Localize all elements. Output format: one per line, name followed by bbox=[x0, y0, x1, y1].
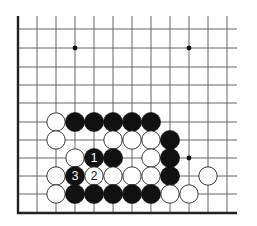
white-stone bbox=[47, 185, 65, 203]
black-stone bbox=[160, 130, 179, 149]
black-stone bbox=[84, 184, 103, 203]
black-stone bbox=[65, 184, 84, 203]
white-stone bbox=[123, 131, 141, 149]
move-number-label: 3 bbox=[72, 169, 79, 183]
black-stone bbox=[65, 112, 84, 131]
white-stone bbox=[104, 167, 122, 185]
black-stone bbox=[122, 184, 141, 203]
black-stone bbox=[103, 112, 122, 131]
black-stone bbox=[103, 148, 122, 167]
go-board: 132 bbox=[0, 0, 257, 226]
black-stone bbox=[160, 166, 179, 185]
black-stone bbox=[141, 184, 160, 203]
black-stone bbox=[160, 148, 179, 167]
white-stone: 2 bbox=[85, 167, 103, 185]
white-stone bbox=[161, 185, 179, 203]
white-stone bbox=[142, 167, 160, 185]
black-stone bbox=[84, 112, 103, 131]
white-stone bbox=[199, 167, 217, 185]
white-stone bbox=[142, 131, 160, 149]
white-stone bbox=[142, 149, 160, 167]
white-stone bbox=[180, 185, 198, 203]
black-stone bbox=[122, 112, 141, 131]
star-point bbox=[187, 156, 192, 161]
white-stone bbox=[66, 149, 84, 167]
white-stone bbox=[123, 167, 141, 185]
white-stone bbox=[47, 167, 65, 185]
white-stone bbox=[47, 113, 65, 131]
white-stone bbox=[47, 131, 65, 149]
black-stone: 3 bbox=[65, 166, 84, 185]
white-stone bbox=[104, 131, 122, 149]
star-point bbox=[73, 46, 78, 51]
black-stone bbox=[103, 184, 122, 203]
star-point bbox=[187, 46, 192, 51]
black-stone bbox=[141, 112, 160, 131]
black-stone: 1 bbox=[84, 148, 103, 167]
move-number-label: 2 bbox=[91, 169, 98, 183]
move-number-label: 1 bbox=[91, 151, 98, 165]
